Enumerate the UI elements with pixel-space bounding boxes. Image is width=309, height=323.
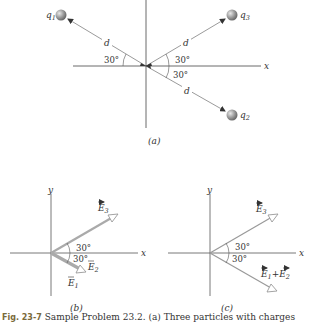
y-axis-label: y bbox=[206, 185, 213, 195]
label-e3: E3 bbox=[255, 203, 267, 216]
distance-label-q2: d bbox=[184, 86, 190, 96]
charge-q1-label: q1 bbox=[46, 10, 56, 22]
y-axis-label: y bbox=[47, 185, 54, 195]
label-e1: E1 bbox=[67, 277, 79, 290]
distance-label-q1: d bbox=[104, 38, 110, 48]
charge-q2-label: q2 bbox=[240, 110, 250, 122]
x-axis-label: x bbox=[299, 248, 304, 258]
svg-text:E3: E3 bbox=[255, 204, 267, 216]
caption-text: Sample Problem 23.2. (a) Three particles… bbox=[45, 312, 295, 322]
panel-a: x d d d 30° 30° 30° q1 q3 q2 (a) bbox=[46, 0, 269, 146]
svg-text:E3: E3 bbox=[97, 203, 109, 215]
figure-caption: Fig. 23-7 Sample Problem 23.2. (a) Three… bbox=[2, 312, 295, 322]
distance-label-q3: d bbox=[183, 38, 189, 48]
x-axis-label: x bbox=[264, 61, 269, 71]
charge-q3 bbox=[227, 10, 238, 21]
angle-label-e3: 30° bbox=[235, 242, 250, 252]
panel-b: y x 30° 30° E3 E2 E1 (b) bbox=[10, 185, 146, 313]
charge-q2 bbox=[227, 110, 238, 121]
angle-label-e12: 30° bbox=[232, 254, 247, 264]
angle-label-q2: 30° bbox=[173, 70, 188, 80]
label-e3: E3 bbox=[97, 202, 109, 215]
charge-q1 bbox=[56, 10, 67, 21]
panel-a-label: (a) bbox=[148, 136, 161, 146]
angle-label-e3: 30° bbox=[76, 243, 91, 253]
charge-q3-label: q3 bbox=[240, 10, 250, 22]
svg-text:E1: E1 bbox=[67, 278, 79, 290]
angle-label-e12: 30° bbox=[73, 254, 88, 264]
figure-canvas: x d d d 30° 30° 30° q1 q3 q2 (a) bbox=[0, 0, 309, 323]
figure-number: Fig. 23-7 bbox=[2, 313, 42, 322]
label-e1-plus-e2: E1+E2 bbox=[260, 268, 290, 281]
angle-label-q1: 30° bbox=[104, 55, 119, 65]
svg-text:E2: E2 bbox=[87, 262, 99, 274]
label-e2: E2 bbox=[87, 261, 99, 274]
angle-label-q3: 30° bbox=[175, 55, 190, 65]
svg-text:E1+E2: E1+E2 bbox=[260, 269, 290, 281]
x-axis-label: x bbox=[141, 248, 146, 258]
panel-c: y x 30° 30° E3 E1+E2 (c) bbox=[168, 185, 304, 313]
